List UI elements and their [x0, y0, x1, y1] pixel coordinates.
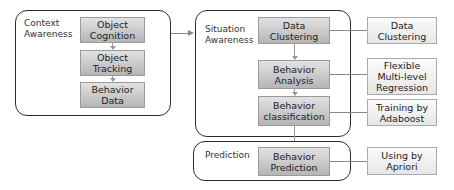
- situation-awareness-label: Situation Awareness: [205, 24, 253, 46]
- method-apriori-box: Using by Apriori: [367, 147, 437, 175]
- object-tracking-box: Object Tracking: [80, 50, 145, 76]
- method-adaboost-box: Training by Adaboost: [367, 99, 437, 126]
- behavior-prediction-box: Behavior Prediction: [258, 147, 330, 176]
- connector-line: [171, 33, 189, 34]
- behavior-data-box: Behavior Data: [80, 82, 145, 108]
- connector-line: [330, 161, 367, 162]
- method-data-clustering-box: Data Clustering: [367, 17, 437, 44]
- prediction-label: Prediction: [205, 150, 250, 161]
- connector-line: [330, 30, 367, 31]
- data-clustering-box: Data Clustering: [258, 17, 330, 44]
- behavior-analysis-box: Behavior Analysis: [258, 60, 330, 89]
- connector-line: [330, 112, 367, 113]
- context-awareness-label: Context Awareness: [24, 18, 72, 40]
- method-flexible-regression-box: Flexible Multi-level Regression: [367, 58, 437, 95]
- connector-line: [330, 74, 367, 75]
- arrow-right-icon: [188, 30, 194, 36]
- object-cognition-box: Object Cognition: [80, 17, 145, 43]
- behavior-classification-box: Behavior classification: [258, 96, 330, 126]
